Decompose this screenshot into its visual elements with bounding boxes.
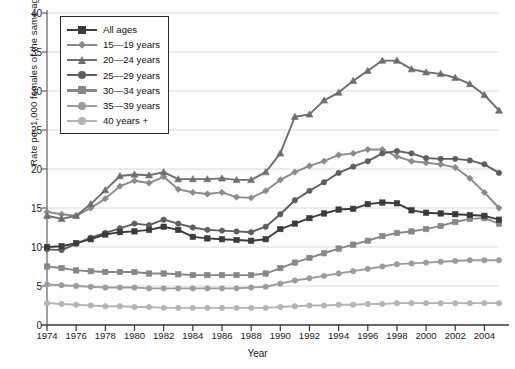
- data-point-diamond: [365, 146, 371, 152]
- data-point-square: [117, 229, 122, 234]
- data-point-square: [380, 200, 385, 205]
- data-point-circle: [438, 259, 443, 264]
- x-tick-label: 1998: [386, 330, 407, 341]
- data-point-square: [146, 227, 151, 232]
- data-point-square: [336, 246, 341, 251]
- legend-label: 30—34 years: [103, 85, 160, 96]
- legend-swatch: [67, 25, 97, 35]
- series-line: [47, 303, 499, 308]
- data-point-circle: [161, 217, 166, 222]
- x-tick-label: 1974: [36, 330, 57, 341]
- x-tick-label: 1984: [182, 330, 203, 341]
- legend-item-5[interactable]: 35—39 years: [67, 98, 160, 113]
- data-point-circle: [380, 301, 385, 306]
- data-point-square: [117, 269, 122, 274]
- chart-legend: All ages15—19 years20—24 years25—29 year…: [60, 16, 169, 134]
- data-point-square: [307, 255, 312, 260]
- legend-label: 25—29 years: [103, 70, 160, 81]
- data-point-square: [263, 271, 268, 276]
- data-point-circle: [350, 164, 355, 169]
- legend-item-0[interactable]: All ages: [67, 22, 160, 37]
- data-point-circle: [423, 300, 428, 305]
- data-point-circle: [248, 305, 253, 310]
- data-point-circle: [482, 162, 487, 167]
- data-point-circle: [176, 305, 181, 310]
- data-point-square: [205, 272, 210, 277]
- data-point-circle: [380, 151, 385, 156]
- data-point-square: [423, 210, 428, 215]
- x-tick-label: 1986: [211, 330, 232, 341]
- y-tick-label: 0: [16, 320, 42, 331]
- data-point-diamond: [248, 195, 254, 201]
- data-point-triangle: [277, 150, 284, 156]
- data-point-square: [336, 207, 341, 212]
- x-tick-label: 2002: [445, 330, 466, 341]
- series-line: [47, 260, 499, 288]
- data-point-square: [234, 237, 239, 242]
- data-point-circle: [321, 180, 326, 185]
- data-point-square: [88, 268, 93, 273]
- legend-marker-circle: [78, 71, 86, 79]
- data-point-square: [482, 213, 487, 218]
- legend-label: 40 years +: [103, 115, 148, 126]
- data-point-circle: [467, 300, 472, 305]
- data-point-circle: [234, 229, 239, 234]
- data-point-circle: [44, 300, 49, 305]
- data-point-square: [380, 233, 385, 238]
- legend-marker-square: [78, 86, 86, 94]
- data-point-square: [453, 212, 458, 217]
- data-point-circle: [146, 286, 151, 291]
- data-point-circle: [453, 156, 458, 161]
- data-point-square: [219, 237, 224, 242]
- data-point-circle: [394, 148, 399, 153]
- y-tick-label: 25: [16, 125, 42, 136]
- data-point-circle: [190, 305, 195, 310]
- legend-item-6[interactable]: 40 years +: [67, 113, 160, 128]
- data-point-circle: [467, 158, 472, 163]
- y-tick-label: 30: [16, 86, 42, 97]
- data-point-circle: [278, 281, 283, 286]
- data-point-circle: [176, 221, 181, 226]
- data-point-circle: [132, 285, 137, 290]
- data-point-diamond: [131, 178, 137, 184]
- y-tick-label: 10: [16, 242, 42, 253]
- data-point-circle: [467, 258, 472, 263]
- data-point-circle: [219, 228, 224, 233]
- x-tick-label: 1996: [357, 330, 378, 341]
- legend-label: 35—39 years: [103, 100, 160, 111]
- data-point-diamond: [190, 189, 196, 195]
- data-point-square: [438, 223, 443, 228]
- legend-item-4[interactable]: 30—34 years: [67, 83, 160, 98]
- series-40-years-: [44, 300, 501, 310]
- data-point-square: [467, 212, 472, 217]
- data-point-circle: [146, 304, 151, 309]
- y-tick-label: 5: [16, 281, 42, 292]
- data-point-circle: [103, 285, 108, 290]
- data-point-circle: [307, 188, 312, 193]
- data-point-square: [292, 221, 297, 226]
- data-point-square: [59, 244, 64, 249]
- data-point-circle: [44, 282, 49, 287]
- x-tick-label: 2004: [474, 330, 495, 341]
- data-point-circle: [365, 266, 370, 271]
- legend-item-3[interactable]: 25—29 years: [67, 68, 160, 83]
- data-point-circle: [292, 278, 297, 283]
- data-point-circle: [409, 300, 414, 305]
- legend-label: All ages: [103, 24, 137, 35]
- data-point-circle: [103, 304, 108, 309]
- data-point-square: [292, 260, 297, 265]
- legend-item-2[interactable]: 20—24 years: [67, 52, 160, 67]
- data-point-diamond: [233, 194, 239, 200]
- x-tick-label: 2000: [416, 330, 437, 341]
- data-point-square: [350, 206, 355, 211]
- data-point-diamond: [408, 158, 414, 164]
- data-point-square: [59, 265, 64, 270]
- x-axis-tick-labels: 1974197619781980198219841986198819901992…: [0, 330, 515, 350]
- data-point-circle: [205, 227, 210, 232]
- x-tick-label: 1994: [328, 330, 349, 341]
- data-point-circle: [350, 268, 355, 273]
- data-point-circle: [409, 261, 414, 266]
- legend-item-1[interactable]: 15—19 years: [67, 37, 160, 52]
- data-point-circle: [219, 286, 224, 291]
- data-point-square: [132, 269, 137, 274]
